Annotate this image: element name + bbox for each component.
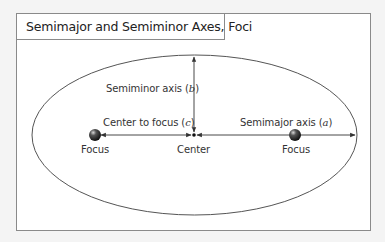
focus-right-sphere <box>289 129 301 141</box>
semimajor-axis-label: Semimajor axis (a) <box>240 117 332 128</box>
center-to-focus-label: Center to focus (c) <box>103 117 194 128</box>
focus-left-label: Focus <box>81 144 109 155</box>
focus-left-sphere <box>89 129 101 141</box>
semiminor-axis-label: Semiminor axis (b) <box>106 83 199 94</box>
center-dot <box>192 133 196 137</box>
focus-right-label: Focus <box>282 144 310 155</box>
center-label: Center <box>177 144 210 155</box>
